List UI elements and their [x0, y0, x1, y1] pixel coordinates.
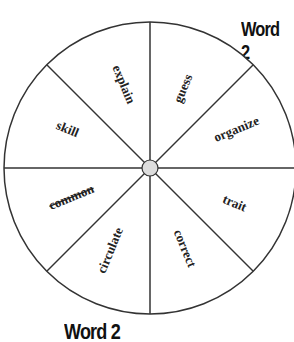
wheel-hub — [142, 160, 158, 176]
word-wheel: explain guess organize trait correct cir… — [0, 0, 294, 342]
word-2-label-bottom: Word 2 — [64, 319, 120, 342]
